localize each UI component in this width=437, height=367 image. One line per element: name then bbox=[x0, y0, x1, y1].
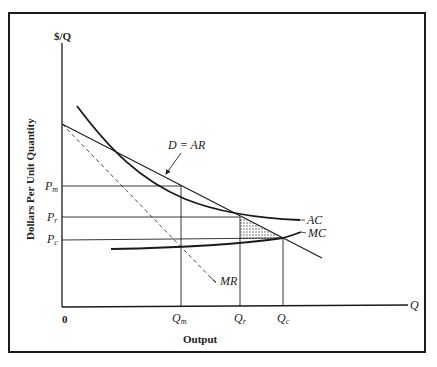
pr-label: Pr bbox=[46, 210, 58, 225]
deadweight-loss-area bbox=[240, 217, 283, 240]
ac-label: AC bbox=[306, 213, 323, 227]
pc-label: Pc bbox=[46, 232, 58, 247]
y-axis-title: Dollars Per Unit Quantity bbox=[24, 118, 36, 240]
origin-label: 0 bbox=[62, 313, 68, 325]
pm-label: Pm bbox=[44, 179, 58, 194]
monopoly-diagram: $/Q Dollars Per Unit Quantity Q Output 0… bbox=[0, 0, 437, 367]
qm-label: Qm bbox=[172, 311, 187, 326]
x-axis-end-label: Q bbox=[410, 298, 419, 312]
mc-label: MC bbox=[307, 226, 327, 240]
qr-label: Qr bbox=[234, 311, 247, 326]
demand-label: D = AR bbox=[167, 138, 206, 152]
mr-label: MR bbox=[219, 274, 238, 288]
x-axis-title: Output bbox=[183, 333, 218, 345]
demand-pointer-arrow bbox=[166, 153, 181, 174]
mc-pointer bbox=[301, 232, 306, 233]
x-axis bbox=[62, 305, 408, 307]
y-axis-top-label: $/Q bbox=[54, 30, 72, 42]
qc-label: Qc bbox=[277, 311, 290, 326]
mr-pointer bbox=[210, 277, 216, 282]
average-cost-curve bbox=[77, 106, 300, 220]
